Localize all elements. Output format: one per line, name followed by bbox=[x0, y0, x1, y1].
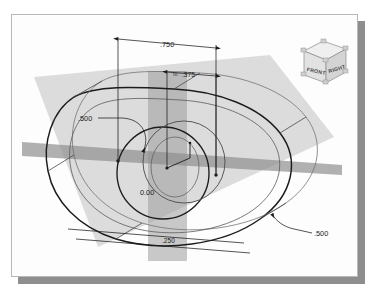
dimension-250-label[interactable]: .250 bbox=[162, 237, 175, 244]
dimension-origin-label[interactable]: 0.00 bbox=[140, 188, 154, 197]
dimension-375-label[interactable]: .375 bbox=[182, 71, 195, 78]
dimension-500-right-label[interactable]: .500 bbox=[314, 229, 328, 238]
cad-viewport: .750 fx: .375 .500 0.00 .250 bbox=[0, 0, 371, 291]
dimension-375-prefix: fx: bbox=[173, 71, 179, 77]
view-orientation-cube[interactable]: FRONT RIGHT bbox=[292, 35, 354, 91]
dimension-750-label[interactable]: .750 bbox=[160, 40, 174, 49]
dimension-500-left-label[interactable]: .500 bbox=[78, 114, 92, 123]
drawing-canvas[interactable]: .750 fx: .375 .500 0.00 .250 bbox=[11, 14, 358, 277]
dimension-500-right-graphics[interactable] bbox=[272, 214, 312, 233]
